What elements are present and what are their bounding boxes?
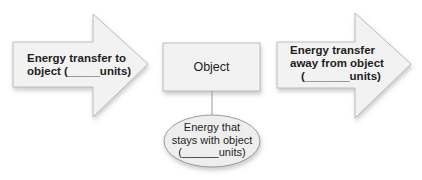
- left-arrow-label: Energy transfer to object (_____units): [27, 52, 131, 78]
- right-arrow-line1: Energy transfer: [290, 44, 390, 57]
- ellipse-label: Energy that stays with object (______uni…: [164, 121, 260, 159]
- object-box-label: Object: [163, 60, 260, 74]
- ellipse-line1: Energy that: [164, 121, 260, 134]
- left-arrow-line1: Energy transfer to: [27, 52, 131, 65]
- right-arrow-label: Energy transfer away from object (______…: [290, 44, 390, 84]
- left-arrow-line2: object (_____units): [27, 65, 131, 78]
- ellipse-line2: stays with object: [164, 134, 260, 147]
- right-arrow-line3: (_______units): [290, 70, 390, 83]
- ellipse-line3: (______units): [164, 146, 260, 159]
- right-arrow-line2: away from object: [290, 57, 390, 70]
